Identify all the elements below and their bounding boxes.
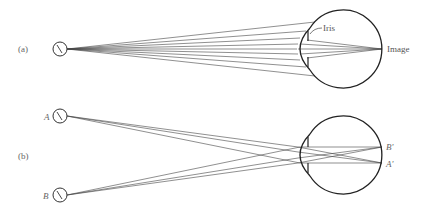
panel-b-label: (b) — [18, 151, 29, 161]
point-source-B — [53, 188, 67, 202]
source-b-label: B — [43, 191, 49, 201]
eye-optics-diagram: (a) — [0, 0, 432, 214]
incoming-rays — [67, 22, 315, 76]
image-label: Image — [387, 44, 410, 54]
point-source-A — [53, 109, 67, 123]
panel-a-label: (a) — [18, 44, 28, 54]
iris-label: Iris — [323, 23, 335, 33]
panel-a: (a) — [18, 10, 410, 88]
iris-pointer — [310, 28, 322, 34]
point-source-a — [53, 42, 67, 56]
b-prime-label: B' — [386, 142, 394, 152]
focused-rays — [298, 40, 382, 58]
a-prime-label: A' — [385, 159, 394, 169]
source-a-label: A — [43, 112, 50, 122]
panel-b: (b) A B — [18, 109, 394, 202]
